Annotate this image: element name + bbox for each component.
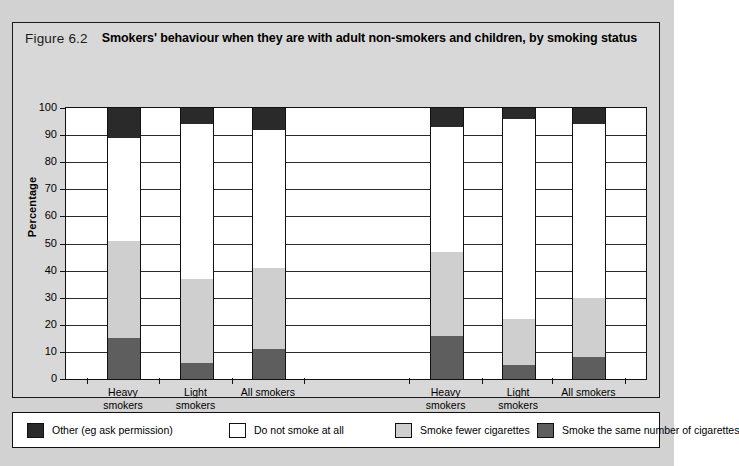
y-tick-mark <box>60 108 65 109</box>
y-tick-label: 30 <box>17 291 57 303</box>
x-category-label: All smokers <box>223 386 313 399</box>
bar-stack <box>180 108 214 379</box>
bar-segment <box>502 319 536 365</box>
bar-segment <box>502 108 536 119</box>
bar-segment <box>180 363 214 379</box>
y-tick-label: 50 <box>17 237 57 249</box>
gridline <box>66 216 646 217</box>
y-tick-mark <box>60 135 65 136</box>
bar-stack <box>430 108 464 379</box>
bar-segment <box>572 357 606 379</box>
y-tick-mark <box>60 216 65 217</box>
bar-segment <box>430 108 464 127</box>
bar-segment <box>180 124 214 278</box>
gridline <box>66 298 646 299</box>
bar-segment <box>107 241 141 339</box>
x-category-label-line1: All smokers <box>223 386 313 399</box>
bar-segment <box>252 108 286 130</box>
gridline <box>66 325 646 326</box>
x-category-label-line2: smokers <box>151 399 241 412</box>
legend-item: Smoke the same number of cigarettes <box>537 423 739 438</box>
x-tick-mark <box>625 378 626 384</box>
bar-segment <box>572 124 606 297</box>
legend-swatch <box>229 423 246 438</box>
x-category-label-line2: smokers <box>473 399 563 412</box>
x-tick-mark <box>159 378 160 384</box>
gridline <box>66 189 646 190</box>
x-category-label-line1: All smokers <box>543 386 633 399</box>
figure-title-row: Figure 6.2 Smokers' behaviour when they … <box>13 23 659 53</box>
legend-item: Smoke fewer cigarettes <box>395 423 530 438</box>
bar-stack <box>572 108 606 379</box>
x-category-label: All smokers <box>543 386 633 399</box>
bar-segment <box>572 108 606 124</box>
figure-number: Figure 6.2 <box>25 31 88 46</box>
legend-label: Smoke the same number of cigarettes <box>562 424 739 436</box>
x-tick-mark <box>232 378 233 384</box>
bar-stack <box>107 108 141 379</box>
y-tick-label: 90 <box>17 128 57 140</box>
chart-legend: Other (eg ask permission)Do not smoke at… <box>12 412 660 448</box>
legend-label: Do not smoke at all <box>254 424 344 436</box>
plot-area: Percentage 0102030405060708090100 Heavys… <box>13 53 661 397</box>
y-tick-mark <box>60 298 65 299</box>
bar-stack <box>502 108 536 379</box>
x-tick-mark <box>482 378 483 384</box>
y-tick-label: 40 <box>17 264 57 276</box>
legend-swatch <box>537 423 554 438</box>
legend-item: Other (eg ask permission) <box>27 423 173 438</box>
bar-segment <box>107 108 141 138</box>
y-tick-mark <box>60 189 65 190</box>
x-tick-mark <box>552 378 553 384</box>
x-tick-mark <box>409 378 410 384</box>
plot-box <box>65 107 647 380</box>
bar-segment <box>107 338 141 379</box>
bar-segment <box>572 298 606 358</box>
y-tick-label: 100 <box>17 101 57 113</box>
legend-label: Other (eg ask permission) <box>52 424 173 436</box>
bar-segment <box>252 349 286 379</box>
figure-panel: Figure 6.2 Smokers' behaviour when they … <box>12 22 660 398</box>
y-tick-label: 60 <box>17 209 57 221</box>
y-tick-mark <box>60 352 65 353</box>
y-tick-mark <box>60 325 65 326</box>
bar-segment <box>107 138 141 241</box>
legend-item: Do not smoke at all <box>229 423 344 438</box>
y-tick-mark <box>60 379 65 380</box>
legend-label: Smoke fewer cigarettes <box>420 424 530 436</box>
gridline <box>66 352 646 353</box>
y-tick-mark <box>60 162 65 163</box>
y-tick-label: 10 <box>17 345 57 357</box>
gridline <box>66 135 646 136</box>
y-tick-label: 20 <box>17 318 57 330</box>
bar-segment <box>252 268 286 349</box>
bar-segment <box>180 108 214 124</box>
gridline <box>66 271 646 272</box>
bar-stack <box>252 108 286 379</box>
figure-title: Smokers' behaviour when they are with ad… <box>102 31 637 45</box>
bar-segment <box>180 279 214 363</box>
bar-segment <box>252 130 286 268</box>
gridline <box>66 162 646 163</box>
y-tick-label: 0 <box>17 372 57 384</box>
bar-segment <box>430 336 464 379</box>
gridline <box>66 244 646 245</box>
bar-segment <box>502 365 536 379</box>
bar-segment <box>430 127 464 252</box>
y-tick-label: 70 <box>17 182 57 194</box>
bar-segment <box>502 119 536 320</box>
x-tick-mark <box>87 378 88 384</box>
legend-swatch <box>395 423 412 438</box>
y-tick-mark <box>60 271 65 272</box>
x-tick-mark <box>304 378 305 384</box>
y-tick-label: 80 <box>17 155 57 167</box>
bar-segment <box>430 252 464 336</box>
y-tick-mark <box>60 244 65 245</box>
legend-swatch <box>27 423 44 438</box>
